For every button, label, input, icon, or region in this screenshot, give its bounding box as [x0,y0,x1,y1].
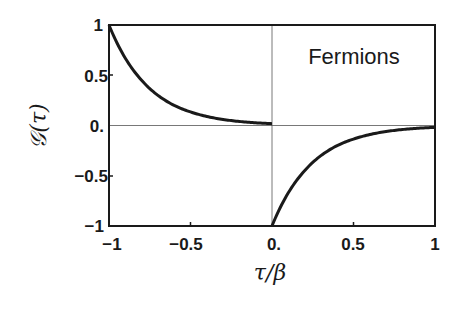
x-tick-1: 1 [430,235,439,254]
x-tick-neg1: −1 [102,235,121,254]
x-tick-0.5: 0.5 [341,235,365,254]
annotation-fermions: Fermions [308,44,400,69]
y-tick-0: 0. [90,117,104,136]
y-tick-1: 1 [94,16,103,35]
x-tick-neg0.5: −0.5 [169,235,203,254]
y-tick-0.5: 0.5 [84,67,108,86]
y-tick-neg0.5: −0.5 [74,167,108,186]
x-tick-labels: −1 −0.5 0. 0.5 1 [102,235,439,254]
tick-marks [109,75,354,226]
y-axis-label: 𝒢(τ) [26,103,51,148]
curve-positive-tau [272,127,435,226]
x-axis-label: τ/β [254,260,286,285]
chart: 1 0.5 0. −0.5 −1 −1 −0.5 0. 0.5 1 Fermio… [0,0,457,311]
x-tick-0: 0. [267,235,281,254]
curve-negative-tau [109,25,272,124]
y-tick-labels: 1 0.5 0. −0.5 −1 [74,16,108,236]
y-tick-neg1: −1 [85,217,104,236]
